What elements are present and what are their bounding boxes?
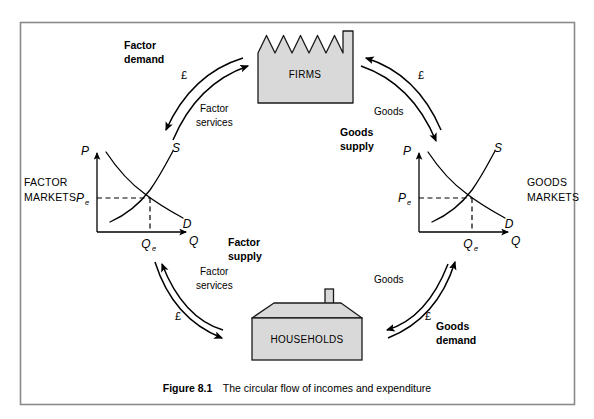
bottom-left-flow-line1: Factor <box>200 266 229 277</box>
goods-markets-chart: P Q S D P e Q e <box>398 141 520 253</box>
equilibrium-price-label: P e <box>398 191 411 207</box>
goods-demand-label: Goods demand <box>436 320 476 346</box>
svg-text:Q: Q <box>463 237 472 251</box>
demand-curve-label: D <box>505 217 514 231</box>
bottom-right-flow-label: Goods <box>374 274 403 285</box>
firms-label: FIRMS <box>289 69 322 80</box>
equilibrium-price-label: P e <box>76 191 89 207</box>
house-roof <box>252 303 362 318</box>
chart-y-axis-label: P <box>81 144 89 158</box>
chart-y-axis-label: P <box>403 144 411 158</box>
firms-node: FIRMS <box>258 31 353 103</box>
goods-markets-label: GOODS MARKETS <box>527 176 579 203</box>
circular-flow-diagram: FIRMS HOUSEHOLDS P Q S D <box>0 0 594 419</box>
goods-supply-money-arrow <box>366 58 441 130</box>
supply-curve-label: S <box>172 141 180 155</box>
svg-text:Q: Q <box>141 237 150 251</box>
factor-markets-label: FACTOR MARKETS <box>24 176 76 203</box>
figure-container: FIRMS HOUSEHOLDS P Q S D <box>0 0 594 419</box>
supply-curve-label: S <box>494 141 502 155</box>
factor-supply-line1: Factor <box>228 236 260 248</box>
factor-demand-label: Factor demand <box>124 39 164 65</box>
top-left-money-symbol: £ <box>181 69 187 81</box>
factor-markets-chart: P Q S D P e Q e <box>76 141 198 253</box>
goods-supply-label: Goods supply <box>340 126 374 152</box>
supply-curve <box>432 151 495 222</box>
svg-text:e: e <box>152 244 156 253</box>
svg-text:P: P <box>398 191 406 205</box>
factor-supply-line2: supply <box>228 250 262 262</box>
top-right-money-symbol: £ <box>418 69 424 81</box>
demand-curve <box>106 152 183 218</box>
figure-caption-text: The circular flow of incomes and expendi… <box>223 382 432 394</box>
households-node: HOUSEHOLDS <box>252 289 362 360</box>
top-left-flow-line1: Factor <box>200 103 229 114</box>
equilibrium-quantity-label: Q e <box>463 237 478 253</box>
top-left-flow-line2: services <box>196 117 233 128</box>
factor-supply-label: Factor supply <box>228 236 262 262</box>
svg-text:e: e <box>474 244 478 253</box>
bottom-right-money-symbol: £ <box>425 310 431 322</box>
goods-demand-line1: Goods <box>436 320 469 332</box>
factor-demand-line2: demand <box>124 53 164 65</box>
goods-demand-line2: demand <box>436 334 476 346</box>
factory-shape <box>258 31 353 103</box>
demand-curve <box>428 152 505 218</box>
svg-text:P: P <box>76 191 84 205</box>
goods-supply-line2: supply <box>340 140 374 152</box>
households-label: HOUSEHOLDS <box>270 334 343 345</box>
bottom-left-flow-line2: services <box>196 280 233 291</box>
goods-supply-line1: Goods <box>340 126 373 138</box>
supply-curve <box>110 151 173 222</box>
top-right-flow-label: Goods <box>374 106 403 117</box>
figure-caption-number: Figure 8.1 <box>163 382 213 394</box>
equilibrium-quantity-label: Q e <box>141 237 156 253</box>
demand-curve-label: D <box>183 217 192 231</box>
figure-caption: Figure 8.1 The circular flow of incomes … <box>163 378 432 395</box>
svg-text:e: e <box>85 198 89 207</box>
goods-markets-line1: GOODS <box>527 176 567 188</box>
factor-markets-line2: MARKETS <box>24 191 76 203</box>
goods-markets-line2: MARKETS <box>527 191 579 203</box>
factor-markets-line1: FACTOR <box>24 176 68 188</box>
chart-x-axis-label: Q <box>189 234 198 248</box>
svg-text:e: e <box>407 198 411 207</box>
factor-demand-line1: Factor <box>124 39 156 51</box>
chart-x-axis-label: Q <box>511 234 520 248</box>
bottom-left-money-symbol: £ <box>175 310 181 322</box>
